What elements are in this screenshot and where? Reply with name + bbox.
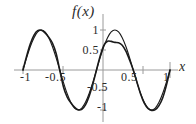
y-tick-label-0point5: 0.5 bbox=[75, 44, 99, 56]
x-tick-label-0point5: 0.5 bbox=[121, 71, 138, 83]
y-tick-label-1: 1 bbox=[85, 24, 99, 36]
y-tick-label-neg0point5: -0.5 bbox=[84, 81, 108, 93]
y-tick-label-neg1: -1 bbox=[84, 101, 108, 113]
x-tick-label-1: 1 bbox=[163, 71, 170, 83]
x-axis-label: x bbox=[179, 60, 186, 74]
x-tick-label-neg1: -1 bbox=[20, 71, 31, 83]
plot-title: f(x) bbox=[72, 4, 95, 19]
x-tick-label-neg0point5: -0.5 bbox=[45, 71, 66, 83]
plot-container: f(x) x -1 -0.5 0.5 1 1 0.5 -0.5 -1 bbox=[0, 0, 196, 124]
